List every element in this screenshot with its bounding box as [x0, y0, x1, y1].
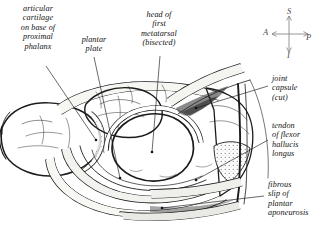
- label-head-of-first-metatarsal: head of first metatarsal (bisected): [128, 10, 190, 48]
- compass-inferior-label: I: [287, 50, 290, 60]
- compass-rose: S I A P: [262, 6, 316, 62]
- compass-superior-label: S: [287, 6, 291, 16]
- label-fibrous-slip-plantar-aponeurosis: fibrous slip of plantar aponeurosis: [268, 180, 320, 218]
- drawing-body: [0, 64, 268, 221]
- label-joint-capsule: joint capsule (cut): [272, 74, 320, 102]
- label-articular-cartilage: articular cartilage on base of proximal …: [2, 4, 74, 51]
- label-tendon-flexor-hallucis-longus: tendon of flexor hallucis longus: [272, 121, 320, 159]
- compass-posterior-label: P: [306, 32, 311, 42]
- label-plantar-plate: plantar plate: [68, 35, 120, 54]
- compass-anterior-label: A: [263, 27, 268, 37]
- anatomical-figure: articular cartilage on base of proximal …: [0, 0, 320, 230]
